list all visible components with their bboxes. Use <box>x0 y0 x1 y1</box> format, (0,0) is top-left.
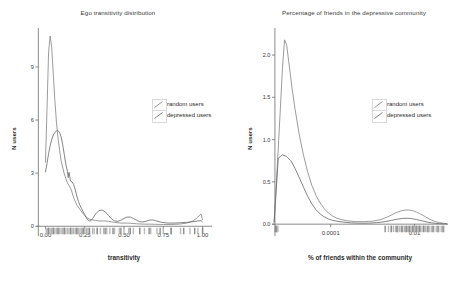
panel-left-title: Ego transitivity distribution <box>0 9 236 16</box>
y-tick-label: 2.0 <box>263 52 271 58</box>
density-plot-figure: Ego transitivity distribution 03690.000.… <box>0 0 472 289</box>
diagonal-line-icon <box>372 110 387 123</box>
panel-ego-transitivity: Ego transitivity distribution 03690.000.… <box>0 0 236 289</box>
legend-label-depressed-users: depressed users <box>167 112 211 118</box>
diagonal-line-icon <box>152 110 167 123</box>
y-tick-label: 9 <box>31 64 34 70</box>
density-curve-random-users <box>274 40 447 224</box>
x-axis-title-left: transitivity <box>36 254 212 261</box>
x-tick-label: 0.0001 <box>322 230 340 236</box>
y-tick-label: 0.5 <box>263 179 271 185</box>
y-axis-title-left: N users <box>10 127 17 150</box>
y-tick-label: 1.5 <box>263 94 271 100</box>
panel-right-title: Percentage of friends in the depressive … <box>236 9 472 16</box>
density-curve-depressed-users <box>274 155 447 224</box>
panel-left-plot: 03690.000.250.500.751.00 <box>0 0 236 289</box>
legend-label-depressed-users: depressed users <box>387 112 431 118</box>
legend-label-random-users: random users <box>167 101 204 107</box>
panel-friends-percentage: Percentage of friends in the depressive … <box>236 0 472 289</box>
x-axis-title-right: % of friends within the community <box>266 254 454 261</box>
legend-label-random-users: random users <box>387 101 424 107</box>
panel-right-plot: 0.00.51.01.52.00.00010.01 <box>236 0 472 289</box>
y-tick-label: 1.0 <box>263 137 271 143</box>
y-tick-label: 3 <box>31 170 34 176</box>
density-curve-random-users <box>45 36 202 225</box>
y-axis-title-right: N users <box>246 127 253 150</box>
y-tick-label: 6 <box>31 117 34 123</box>
y-tick-label: 0.0 <box>263 221 271 227</box>
y-tick-label: 0 <box>31 223 34 229</box>
density-curve-depressed-users <box>45 131 202 223</box>
